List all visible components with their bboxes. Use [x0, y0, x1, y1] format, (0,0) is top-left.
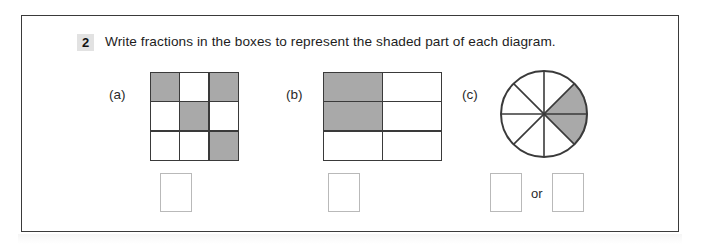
grid-cell [383, 102, 441, 130]
grid-cell [180, 102, 208, 130]
part-a-label: (a) [109, 87, 126, 102]
diagram-b-grid [323, 72, 442, 161]
grid-cell [210, 132, 238, 160]
grid-cell [324, 73, 382, 101]
pie-chart-icon [500, 70, 588, 158]
grid-cell [180, 132, 208, 160]
grid-cell [324, 102, 382, 130]
grid-cell [151, 73, 179, 101]
question-number-badge: 2 [77, 34, 94, 51]
question-panel: 2 Write fractions in the boxes to repres… [21, 15, 679, 232]
part-c-label: (c) [462, 87, 478, 102]
answer-box-b[interactable] [328, 173, 360, 212]
diagram-c-circle [500, 70, 588, 162]
answer-box-c-1[interactable] [490, 173, 522, 212]
grid-cell [151, 102, 179, 130]
grid-cell [324, 132, 382, 160]
grid-cell [383, 73, 441, 101]
grid-cell [210, 73, 238, 101]
scan-edge-band [18, 234, 682, 244]
grid-cell [383, 132, 441, 160]
diagram-a-grid [150, 72, 239, 161]
answer-box-c-2[interactable] [552, 173, 584, 212]
answer-box-a[interactable] [160, 173, 192, 212]
grid-cell [210, 102, 238, 130]
worksheet-page: 2 Write fractions in the boxes to repres… [0, 0, 702, 248]
grid-cell [180, 73, 208, 101]
or-label: or [531, 186, 543, 201]
question-text: Write fractions in the boxes to represen… [105, 32, 625, 51]
grid-cell [151, 132, 179, 160]
part-b-label: (b) [286, 87, 303, 102]
